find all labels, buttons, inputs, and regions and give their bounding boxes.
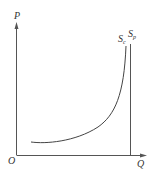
y-axis-label: P xyxy=(13,10,20,21)
sc-label: Sc xyxy=(118,33,126,45)
curve-sc xyxy=(31,46,126,143)
origin-label: O xyxy=(8,155,15,166)
x-axis-label: Q xyxy=(137,158,145,169)
x-axis-arrow-icon xyxy=(140,154,147,158)
sp-label: Sp xyxy=(128,28,136,40)
supply-diagram: P Q O Sc Sp xyxy=(0,0,157,177)
y-axis-arrow-icon xyxy=(15,22,19,29)
